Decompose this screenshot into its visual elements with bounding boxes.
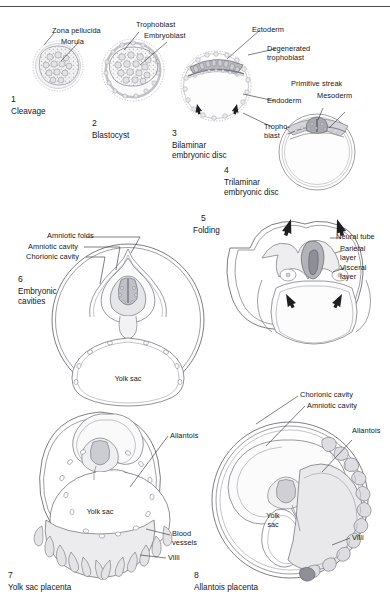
label-allantois: Allantois xyxy=(352,427,380,436)
panel-3-artwork xyxy=(181,30,275,127)
panel-5-caption: Folding xyxy=(193,226,220,236)
label-yolk-sac-line2: sac xyxy=(258,521,288,529)
label-degenerated-trophoblast-line2: trophoblast xyxy=(267,54,304,63)
panel-4-caption-line1: Trilaminar xyxy=(224,178,260,188)
label-villi: Villi xyxy=(352,534,364,543)
label-amniotic-cavity: Amniotic cavity xyxy=(307,402,357,411)
figure-canvas: .o{fill:none;stroke:#5d5d63;stroke-width… xyxy=(0,0,390,604)
panel-5-number: 5 xyxy=(201,213,206,223)
label-amniotic-cavity: Amniotic cavity xyxy=(28,243,78,252)
panel-3-caption-line2: embryonic disc xyxy=(172,151,227,161)
panel-7-number: 7 xyxy=(8,570,13,580)
panel-3-caption-line1: Bilaminar xyxy=(172,141,206,151)
label-embryoblast: Embryoblast xyxy=(144,32,186,41)
label-parietal-layer-line2: layer xyxy=(340,254,356,263)
panel-4-number: 4 xyxy=(224,165,229,175)
label-zona-pellucida: Zona pellucida xyxy=(52,27,101,36)
panel-6-caption-line2: cavities xyxy=(18,297,45,307)
panel-6-number: 6 xyxy=(18,274,23,284)
panel-8-number: 8 xyxy=(194,570,199,580)
panel-2-artwork xyxy=(102,32,167,101)
label-chorionic-cavity: Chorionic cavity xyxy=(300,391,353,400)
panel-1-number: 1 xyxy=(11,94,16,104)
panel-7-artwork xyxy=(34,412,172,580)
panel-8-caption: Allantois placenta xyxy=(194,583,258,593)
label-amniotic-folds: Amniotic folds xyxy=(47,232,94,241)
panel-4-artwork xyxy=(279,108,355,190)
label-morula: Morula xyxy=(61,38,84,47)
label-visceral-layer-line2: layer xyxy=(340,273,356,282)
label-blood-vessels-line2: vessels xyxy=(172,539,197,548)
label-mesoderm: Mesoderm xyxy=(317,92,352,101)
panel-7-caption: Yolk sac placenta xyxy=(8,583,71,593)
label-primitive-streak: Primitive streak xyxy=(291,80,342,89)
label-yolk-sac: Yolk sac xyxy=(106,375,150,383)
panel-4-caption-line2: embryonic disc xyxy=(224,188,279,198)
label-yolk-sac-line1: Yolk xyxy=(258,512,288,520)
label-trophoblast-line2: blast xyxy=(264,132,280,141)
label-trophoblast: Trophoblast xyxy=(136,21,175,30)
label-endoderm: Endoderm xyxy=(267,97,302,106)
panel-6-caption-line1: Embryonic xyxy=(18,287,57,297)
label-chorionic-cavity: Chorionic cavity xyxy=(26,253,79,262)
panel-2-caption: Blastocyst xyxy=(92,131,129,141)
panel-2-number: 2 xyxy=(92,118,97,128)
panel-3-number: 3 xyxy=(172,128,177,138)
panel-8-artwork xyxy=(212,396,371,581)
label-yolk-sac: Yolk sac xyxy=(78,508,122,516)
label-allantois: Allantois xyxy=(170,432,198,441)
label-villi: Villi xyxy=(168,554,180,563)
label-neural-tube: Neural tube xyxy=(336,233,375,242)
label-ectoderm: Ectoderm xyxy=(252,26,284,35)
panel-1-caption: Cleavage xyxy=(11,107,46,117)
